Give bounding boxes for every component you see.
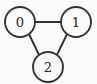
node-0[interactable]: 0 [5, 7, 35, 37]
edge-0-2 [29, 34, 39, 55]
node-1[interactable]: 1 [61, 7, 91, 37]
graph-diagram-figure: 0 1 2 [0, 0, 97, 84]
node-0-label: 0 [16, 15, 24, 30]
graph-canvas: 0 1 2 [0, 0, 97, 84]
node-group: 0 1 2 [5, 7, 91, 82]
node-2-label: 2 [44, 60, 52, 75]
node-1-label: 1 [72, 15, 80, 30]
edge-1-2 [57, 34, 67, 55]
node-2[interactable]: 2 [33, 52, 63, 82]
